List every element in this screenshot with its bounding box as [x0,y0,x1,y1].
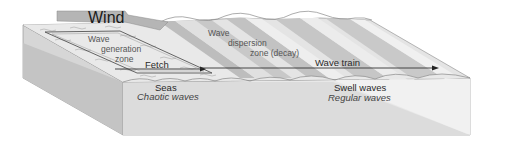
generation-zone-label-1: Wave [88,34,110,44]
generation-zone-label-2: generation [101,44,141,54]
dispersion-label-2: dispersion [228,38,267,48]
dispersion-label-3: zone (decay) [250,48,299,58]
seas-sublabel: Chaotic waves [137,91,199,102]
wave-diagram: Wind Wave generation zone Fetch Wave dis… [0,0,505,145]
wind-label: Wind [88,9,124,26]
dispersion-label-1: Wave [208,28,230,38]
generation-zone-label-3: zone [115,54,134,64]
wave-train-label: Wave train [315,57,360,68]
fetch-label: Fetch [145,59,169,70]
swell-sublabel: Regular waves [328,92,391,103]
